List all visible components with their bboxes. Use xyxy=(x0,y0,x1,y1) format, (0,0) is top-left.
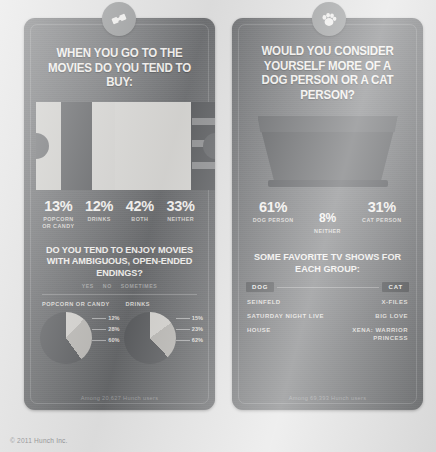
dog-show-list: SEINFELD SATURDAY NIGHT LIVE HOUSE xyxy=(247,299,328,348)
stat-value: 42% xyxy=(120,199,161,214)
list-item: SATURDAY NIGHT LIVE xyxy=(247,313,328,321)
stat-both: 42% BOTH xyxy=(120,199,161,230)
pie-value-labels: 12% 28% 60% xyxy=(92,313,119,346)
ticket-stub-2 xyxy=(92,102,115,190)
pet-stats-row: 61% DOG PERSON 8% NEITHER 31% CAT PERSON xyxy=(244,200,411,235)
stat-neither: 8% NEITHER xyxy=(300,211,354,235)
list-item: HOUSE xyxy=(247,327,328,335)
panel-movies: WHEN YOU GO TO THE MOVIES DO YOU TEND TO… xyxy=(24,18,215,410)
group-chips-bar: DOG CAT xyxy=(244,282,411,292)
section-subtitle: DO YOU TEND TO ENJOY MOVIES WITH AMBIGUO… xyxy=(40,244,199,279)
pie-legend: YES NO SOMETIMES xyxy=(36,283,203,289)
stat-value: 31% xyxy=(355,200,409,215)
pie-graphic xyxy=(40,312,92,364)
bowl-base xyxy=(268,180,388,187)
stat-cat-person: 31% CAT PERSON xyxy=(355,200,409,224)
stat-label: NEITHER xyxy=(300,228,354,235)
pie-graphic xyxy=(124,312,176,364)
pie-popcorn: POPCORN OR CANDY 12% 28% 60% xyxy=(36,301,120,364)
copyright-notice: © 2011 Hunch Inc. xyxy=(10,437,68,444)
chip-cat: CAT xyxy=(382,282,409,292)
movie-ticket-illustration xyxy=(36,102,215,190)
stat-value: 61% xyxy=(246,200,300,215)
stat-value: 13% xyxy=(38,199,79,214)
chip-connector xyxy=(277,287,379,288)
pie-title: POPCORN OR CANDY xyxy=(42,301,120,309)
panel-movies-content: WHEN YOU GO TO THE MOVIES DO YOU TEND TO… xyxy=(24,46,215,364)
cat-show-list: X-FILES BIG LOVE XENA: WARRIOR PRINCESS xyxy=(328,299,409,348)
panel-pets-content: WOULD YOU CONSIDER YOURSELF MORE OF A DO… xyxy=(232,44,423,348)
chip-dog: DOG xyxy=(246,282,274,292)
pie-slice-label: 23% xyxy=(176,324,203,335)
divider xyxy=(42,294,197,295)
pie-drinks: DRINKS 15% 23% 62% xyxy=(120,301,204,364)
stat-dog-person: 61% DOG PERSON xyxy=(246,200,300,224)
stat-label: CAT PERSON xyxy=(355,217,409,224)
tv-show-lists: SEINFELD SATURDAY NIGHT LIVE HOUSE X-FIL… xyxy=(244,299,411,348)
pie-charts: POPCORN OR CANDY 12% 28% 60% DRINKS 15% … xyxy=(36,301,203,364)
pie-slice-label: 12% xyxy=(92,313,119,324)
legend-no: NO xyxy=(103,283,112,289)
stat-label: BOTH xyxy=(120,216,161,223)
stat-label: POPCORN OR CANDY xyxy=(38,216,79,230)
pie-value-labels: 15% 23% 62% xyxy=(176,313,203,346)
stat-value: 8% xyxy=(300,211,354,226)
stat-value: 33% xyxy=(160,199,201,214)
pie-title: DRINKS xyxy=(126,301,204,309)
pie-slice-label: 15% xyxy=(176,313,203,324)
pie-slice-label: 60% xyxy=(92,335,119,346)
ticket-stub-3 xyxy=(115,102,191,190)
panel-pets: WOULD YOU CONSIDER YOURSELF MORE OF A DO… xyxy=(232,18,423,410)
pet-bowl-illustration xyxy=(250,116,406,190)
ticket-icon xyxy=(102,2,136,36)
ticket-line xyxy=(192,162,215,169)
list-item: X-FILES xyxy=(328,299,409,307)
stat-label: NEITHER xyxy=(160,216,201,223)
list-item: BIG LOVE xyxy=(328,313,409,321)
legend-yes: YES xyxy=(82,283,94,289)
stat-drinks: 12% DRINKS xyxy=(79,199,120,230)
stat-value: 12% xyxy=(79,199,120,214)
stat-label: DOG PERSON xyxy=(246,217,300,224)
panel-footer-pets: Among 69,393 Hunch users xyxy=(232,395,423,401)
stat-label: DRINKS xyxy=(79,216,120,223)
ticket-line xyxy=(192,118,215,125)
pie-slice-label: 62% xyxy=(176,335,203,346)
movie-stats-row: 13% POPCORN OR CANDY 12% DRINKS 42% BOTH… xyxy=(36,199,203,230)
infographic-canvas: WHEN YOU GO TO THE MOVIES DO YOU TEND TO… xyxy=(0,0,436,452)
stat-neither: 33% NEITHER xyxy=(160,199,201,230)
list-item: XENA: WARRIOR PRINCESS xyxy=(328,327,409,343)
tv-shows-title: SOME FAVORITE TV SHOWS FOR EACH GROUP: xyxy=(248,251,407,274)
pie-slice-label: 28% xyxy=(92,324,119,335)
page-title: WHEN YOU GO TO THE MOVIES DO YOU TEND TO… xyxy=(42,46,197,90)
paw-icon xyxy=(312,2,346,36)
stat-popcorn: 13% POPCORN OR CANDY xyxy=(38,199,79,230)
page-title: WOULD YOU CONSIDER YOURSELF MORE OF A DO… xyxy=(250,44,405,102)
legend-sometimes: SOMETIMES xyxy=(121,283,158,289)
panel-footer-movies: Among 20,627 Hunch users xyxy=(24,395,215,401)
list-item: SEINFELD xyxy=(247,299,328,307)
bowl-rim xyxy=(258,116,398,132)
